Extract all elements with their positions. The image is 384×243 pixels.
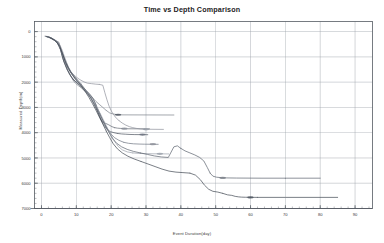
series-marker-6 <box>157 153 163 155</box>
series-line-5 <box>48 37 158 144</box>
series-marker-4 <box>139 133 145 135</box>
x-tick-label-40: 40 <box>171 212 191 217</box>
x-tick-label-50: 50 <box>206 212 226 217</box>
x-tick-label-20: 20 <box>101 212 121 217</box>
plot-frame <box>31 22 373 209</box>
y-axis-title: Measured Depth(m) <box>18 51 23 171</box>
series-marker-7 <box>219 177 225 179</box>
y-tick-label-7000: 7000 <box>9 206 31 211</box>
x-axis-title: Event Duration(day) <box>0 231 384 236</box>
series-line-6 <box>48 37 168 154</box>
series-layer <box>45 36 338 197</box>
x-tick-label-0: 0 <box>31 212 51 217</box>
series-line-1 <box>45 36 174 115</box>
x-tick-label-80: 80 <box>310 212 330 217</box>
data-point-markers <box>53 39 285 198</box>
x-tick-label-70: 70 <box>275 212 295 217</box>
x-tick-label-90: 90 <box>345 212 365 217</box>
x-tick-label-30: 30 <box>136 212 156 217</box>
grid-layer <box>35 22 373 209</box>
series-line-8 <box>49 37 338 197</box>
series-marker-1 <box>115 114 121 116</box>
series-marker-5 <box>150 143 156 145</box>
x-tick-label-60: 60 <box>241 212 261 217</box>
series-marker-2 <box>121 128 127 130</box>
time-vs-depth-plot <box>0 0 384 243</box>
series-marker-3 <box>143 128 149 130</box>
series-marker-8 <box>247 196 253 198</box>
y-tick-label-6000: 6000 <box>9 181 31 186</box>
y-tick-label-0: 0 <box>9 29 31 34</box>
x-tick-label-10: 10 <box>66 212 86 217</box>
chart-container: Time vs Depth Comparison 010203040506070… <box>0 0 384 243</box>
